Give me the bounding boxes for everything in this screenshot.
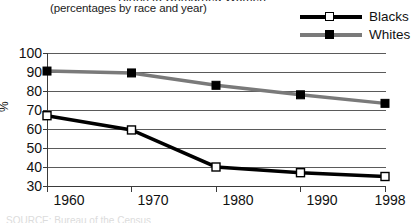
y-tick-label-60: 60: [26, 122, 42, 136]
y-tick-label-70: 70: [26, 103, 42, 117]
x-tick-label-1998: 1998: [374, 193, 405, 208]
x-tick-1970: [131, 187, 132, 192]
chart-subtitle: (percentages by race and year): [50, 2, 207, 14]
y-tick-label-50: 50: [26, 141, 42, 155]
legend-swatch-whites: [300, 28, 362, 42]
y-axis-labels: 100 90 80 70 60 50 40 30: [0, 0, 42, 224]
x-tick-1960: [47, 187, 48, 192]
source-note-clipped: SOURCE: Bureau of the Census: [6, 215, 151, 223]
legend-item-whites: Whites: [300, 26, 410, 44]
legend-swatch-blacks: [300, 10, 362, 24]
legend-item-blacks: Blacks: [300, 8, 410, 26]
y-axis-title: %: [0, 101, 11, 112]
x-tick-label-1980: 1980: [222, 193, 253, 208]
x-tick-1980: [216, 187, 217, 192]
y-tick-label-40: 40: [26, 160, 42, 174]
chart-legend: Blacks Whites: [300, 8, 410, 44]
chart-figure: Births to Unmarried Women (percentages b…: [0, 0, 411, 224]
y-tick-label-100: 100: [19, 46, 42, 60]
x-tick-label-1970: 1970: [137, 193, 168, 208]
legend-label-blacks: Blacks: [369, 10, 409, 24]
legend-label-whites: Whites: [369, 28, 410, 42]
y-tick-label-80: 80: [26, 84, 42, 98]
y-tick-label-30: 30: [26, 179, 42, 193]
series-layer: [47, 53, 387, 189]
x-axis: 1960 1970 1980 1990 1998: [47, 187, 387, 213]
x-tick-label-1990: 1990: [306, 193, 337, 208]
x-tick-1990: [300, 187, 301, 192]
x-tick-label-1960: 1960: [53, 193, 84, 208]
y-tick-label-90: 90: [26, 65, 42, 79]
chart-title-clipped: Births to Unmarried Women: [118, 0, 266, 1]
